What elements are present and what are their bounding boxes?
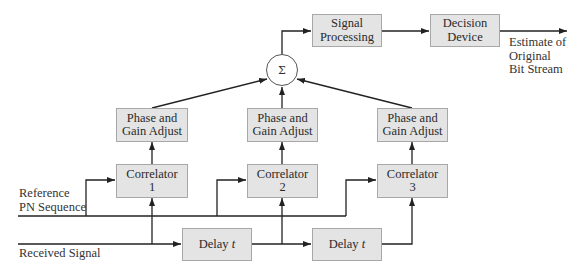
block-label-line2: 2	[279, 181, 285, 195]
sigma-symbol: Σ	[278, 64, 286, 77]
output-label-line1: Estimate of	[509, 36, 566, 50]
block-label-line1: Phase and	[127, 112, 177, 126]
reference-label-line1: Reference	[19, 187, 86, 201]
signal-processing-block: Signal Processing	[312, 14, 382, 47]
block-label-line1: Phase and	[257, 112, 307, 126]
block-label-line2: 3	[409, 181, 415, 195]
block-label-line2: Device	[447, 31, 482, 45]
block-label-line1: Decision	[443, 17, 487, 31]
output-label-line3: Bit Stream	[509, 63, 566, 77]
reference-label-line2: PN Sequence	[19, 201, 86, 215]
delay-variable: t	[232, 238, 235, 252]
output-label: Estimate of Original Bit Stream	[509, 36, 566, 77]
block-label-line1: Correlator	[126, 168, 177, 182]
correlator-block-1: Correlator 1	[116, 164, 188, 198]
block-label-line1: Signal	[331, 17, 363, 31]
pn-to-corr3-line	[346, 180, 376, 216]
phase-gain-block-3: Phase and Gain Adjust	[377, 108, 448, 142]
correlator-block-2: Correlator 2	[247, 164, 318, 198]
phase-gain-block-2: Phase and Gain Adjust	[247, 108, 318, 142]
phase1-to-sum-line	[152, 79, 267, 108]
delay-label: Delay	[329, 238, 362, 252]
reference-pn-label: Reference PN Sequence	[19, 187, 86, 214]
block-label-line2: Processing	[320, 31, 374, 45]
received-signal-label: Received Signal	[19, 247, 101, 261]
pn-to-corr2-line	[217, 180, 246, 216]
correlator-block-3: Correlator 3	[377, 164, 448, 198]
delay-block-2: Delay t	[312, 228, 382, 261]
block-label-line2: 1	[149, 181, 155, 195]
delay-variable: t	[362, 238, 365, 252]
phase3-to-sum-line	[297, 79, 412, 108]
phase-gain-block-1: Phase and Gain Adjust	[116, 108, 188, 142]
block-label-line1: Correlator	[387, 168, 438, 182]
block-label-line2: Gain Adjust	[122, 125, 182, 139]
block-label-line2: Gain Adjust	[382, 125, 442, 139]
summer-node: Σ	[266, 54, 298, 86]
pn-to-corr1-line	[86, 180, 115, 216]
delay2-to-corr3-line	[382, 198, 412, 244]
block-label-line1: Phase and	[387, 112, 437, 126]
decision-device-block: Decision Device	[430, 14, 500, 47]
output-label-line2: Original	[509, 50, 566, 64]
delay-label: Delay	[199, 238, 232, 252]
delay-block-1: Delay t	[182, 228, 252, 261]
sum-to-signal-processing-line	[282, 31, 311, 54]
block-label-line1: Correlator	[257, 168, 308, 182]
block-label-line2: Gain Adjust	[252, 125, 312, 139]
